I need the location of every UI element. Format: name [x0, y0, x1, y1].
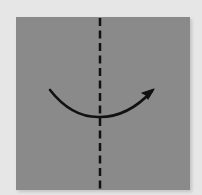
fold-diagram — [0, 0, 202, 195]
